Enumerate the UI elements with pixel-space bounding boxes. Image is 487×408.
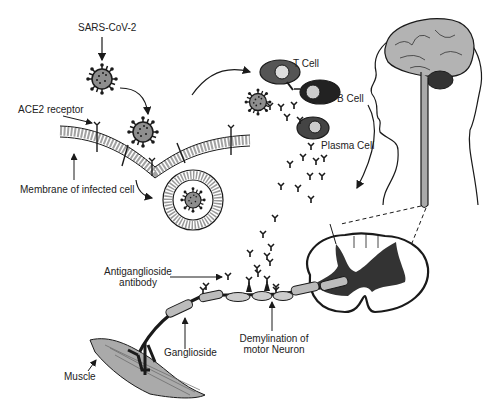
cell-membrane [60, 122, 250, 178]
label-demyelination-line1: Demylination of [240, 333, 309, 344]
virus-icon [86, 63, 118, 95]
label-ganglioside: Ganglioside [164, 347, 217, 358]
label-plasma-cell: Plasma Cell [321, 140, 374, 151]
plasma-cell-icon [297, 117, 329, 139]
head-silhouette [371, 19, 481, 208]
spinal-cord-icon [307, 224, 428, 312]
virus-bound-icon [127, 116, 159, 148]
label-antiganglioside-antibody: Antiganglioside antibody [103, 266, 173, 288]
endocytic-vesicle [136, 170, 223, 230]
label-antibody-line2: antibody [119, 277, 157, 288]
label-demyelination: Demylination of motor Neuron [236, 333, 312, 355]
label-membrane: Membrane of infected cell [20, 184, 135, 195]
label-sars-cov-2: SARS-CoV-2 [78, 22, 136, 33]
label-b-cell: B Cell [337, 93, 364, 104]
label-demyelination-line2: motor Neuron [243, 344, 304, 355]
label-ace2-receptor: ACE2 receptor [18, 104, 84, 115]
b-cell-icon [294, 80, 340, 104]
arrow-to-t-cell [192, 70, 250, 95]
virus-antibody-icon [245, 89, 272, 116]
label-t-cell: T Cell [293, 58, 319, 69]
label-antibody-line1: Antiganglioside [104, 266, 172, 277]
label-muscle: Muscle [64, 371, 96, 382]
